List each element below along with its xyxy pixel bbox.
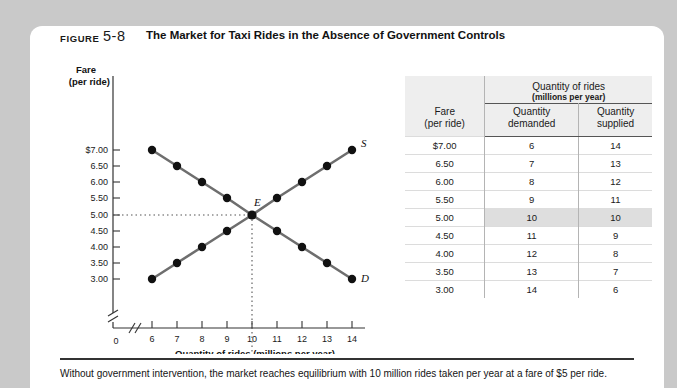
y-tick-label: 5.00 [90,210,108,220]
cell-supplied: 9 [579,227,652,245]
cell-fare: 6.50 [405,155,485,173]
cell-supplied: 11 [579,191,652,209]
cell-fare: 5.00 [405,209,485,227]
y-tick-label: 4.50 [90,226,108,236]
data-point [298,178,306,186]
data-table-container: Fare (per ride) Quantity of rides (milli… [405,76,652,298]
x-tick-label: 11 [272,334,281,344]
header-demanded-line2: demanded [485,118,578,130]
y-axis-title-line1: Fare [76,64,96,75]
header-quantity-supplied: Quantity supplied [579,104,652,137]
table-row: 4.00 12 8 [405,245,652,263]
cell-supplied: 8 [579,245,652,263]
equilibrium-label: E [253,196,261,208]
data-point [148,146,156,154]
cell-supplied: 12 [579,173,652,191]
y-tick-label: 6.50 [90,161,108,171]
data-point [273,194,281,202]
caption-text: Without government intervention, the mar… [60,367,634,382]
y-tick-label: 5.50 [90,193,108,203]
header-quantity-group: Quantity of rides (millions per year) [485,76,652,104]
cell-demanded: 9 [485,191,579,209]
y-axis-tick-labels: $7.00 6.50 6.00 5.50 5.00 4.50 4.00 3.50… [85,145,108,284]
cell-supplied: 6 [579,281,652,299]
cell-supplied: 7 [579,263,652,281]
supply-curve-label: S [361,137,367,149]
table-row: 3.50 13 7 [405,263,652,281]
y-tick-label: $7.00 [85,145,108,155]
header-group-line1: Quantity of rides [485,81,652,93]
cell-fare: 6.00 [405,173,485,191]
origin-label: 0 [113,336,118,346]
header-demanded-line1: Quantity [485,106,578,118]
table-row: 3.00 14 6 [405,281,652,299]
y-tick-label: 6.00 [90,177,108,187]
figure-header: Figure 5-8 The Market for Taxi Rides in … [30,26,664,54]
y-axis-title-line2: (per ride) [69,76,110,87]
table-row: 6.50 7 13 [405,155,652,173]
header-quantity-demanded: Quantity demanded [485,104,579,137]
x-tick-label: 7 [174,334,179,344]
y-tick-label: 3.50 [90,258,108,268]
cell-demanded: 6 [485,137,579,155]
cell-demanded: 13 [485,263,579,281]
table-row-equilibrium: 5.00 10 10 [405,209,652,227]
cell-fare: 5.50 [405,191,485,209]
cell-fare: $7.00 [405,137,485,155]
figure-number: 5-8 [103,28,125,44]
header-fare-line1: Fare [405,106,484,118]
equilibrium-point [247,210,256,219]
cell-supplied: 14 [579,137,652,155]
data-point [223,194,231,202]
data-point [348,146,356,154]
data-point [173,259,181,267]
x-tick-label: 9 [224,334,229,344]
header-supplied-line2: supplied [579,118,652,130]
data-point [148,275,156,283]
data-point [348,275,356,283]
y-axis-break-2 [108,316,118,322]
x-axis-tick-labels: 6 7 8 9 10 11 12 13 14 [149,334,357,344]
y-tick-label: 3.00 [90,274,108,284]
table-header: Fare (per ride) Quantity of rides (milli… [405,76,652,137]
x-tick-label: 12 [297,334,307,344]
figure-title: The Market for Taxi Rides in the Absence… [146,29,505,41]
x-tick-label: 14 [347,334,357,344]
cell-demanded: 10 [485,209,579,227]
supply-demand-chart: Fare (per ride) $7. [30,54,400,354]
data-point [198,178,206,186]
x-tick-label: 8 [199,334,204,344]
cell-demanded: 11 [485,227,579,245]
caption-divider [60,358,634,360]
data-point [198,243,206,251]
x-tick-label: 6 [149,334,154,344]
data-point [223,227,231,235]
cell-fare: 3.50 [405,263,485,281]
header-group-line2: (millions per year) [485,93,652,103]
table-row: 6.00 8 12 [405,173,652,191]
supply-demand-table: Fare (per ride) Quantity of rides (milli… [405,76,652,298]
cell-fare: 3.00 [405,281,485,299]
cell-demanded: 14 [485,281,579,299]
cell-fare: 4.00 [405,245,485,263]
data-point [173,162,181,170]
cell-demanded: 12 [485,245,579,263]
caption-area: Without government intervention, the mar… [60,358,634,381]
cell-demanded: 7 [485,155,579,173]
cell-demanded: 8 [485,173,579,191]
data-point [323,259,331,267]
x-axis-title: Quantity of rides (millions per year) [175,348,335,354]
header-supplied-line1: Quantity [579,106,652,118]
chart-area: Fare (per ride) $7. [30,54,400,354]
cell-fare: 4.50 [405,227,485,245]
data-point [273,227,281,235]
x-tick-label: 13 [322,334,332,344]
table-header-group-row: Fare (per ride) Quantity of rides (milli… [405,76,652,104]
cell-supplied: 13 [579,155,652,173]
table-row: 4.50 11 9 [405,227,652,245]
cell-supplied: 10 [579,209,652,227]
table-row: 5.50 9 11 [405,191,652,209]
data-point [323,162,331,170]
y-tick-label: 4.00 [90,242,108,252]
table-body: $7.00 6 14 6.50 7 13 6.00 8 12 5.50 9 [405,137,652,299]
